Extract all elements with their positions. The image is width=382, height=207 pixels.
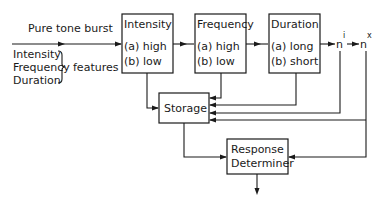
- frequency-option-a: (a) high: [197, 40, 240, 53]
- features-group: Intensity Frequency Duration features: [13, 48, 119, 87]
- response-label-line1: Response: [231, 143, 284, 156]
- arrow-right-icon: [220, 155, 227, 160]
- frequency-title: Frequency: [197, 18, 254, 31]
- storage-label: Storage: [164, 102, 207, 115]
- duration-option-a: (a) long: [271, 40, 314, 53]
- intensity-title: Intensity: [124, 18, 172, 31]
- frequency-analyzer: Frequency (a) high (b) low: [195, 14, 254, 73]
- features-label: features: [73, 61, 119, 74]
- arrow-down-icon: [255, 188, 260, 195]
- feature-duration: Duration: [13, 74, 61, 87]
- arrow-right-icon: [58, 42, 65, 47]
- analyzer-n-i: n: [336, 38, 343, 51]
- arrow-right-icon: [115, 42, 122, 47]
- arrow-left-icon: [209, 111, 216, 116]
- arrow-left-icon: [209, 103, 216, 108]
- intensity-option-b: (b) low: [124, 55, 162, 68]
- storage-box: Storage: [159, 93, 209, 123]
- feature-intensity: Intensity: [13, 48, 61, 61]
- frequency-option-b: (b) low: [197, 55, 235, 68]
- arrow-right-icon: [180, 42, 187, 47]
- arrow-right-icon: [328, 42, 335, 47]
- duration-option-b: (b) short: [271, 55, 319, 68]
- intensity-option-a: (a) high: [124, 40, 167, 53]
- analyzer-n-i-sup: i: [343, 31, 345, 40]
- arrow-right-icon: [152, 106, 159, 111]
- response-label-line2: Determiner: [231, 157, 294, 170]
- arrow-left-icon: [209, 118, 216, 123]
- duration-title: Duration: [271, 18, 319, 31]
- duration-analyzer: Duration (a) long (b) short: [269, 14, 320, 73]
- feature-analysis-diagram: Pure tone burst Intensity Frequency Dura…: [0, 0, 382, 207]
- input-line: [12, 42, 122, 47]
- analyzer-n-x-sup: x: [367, 31, 372, 40]
- intensity-analyzer: Intensity (a) high (b) low: [122, 14, 173, 73]
- analyzer-n-x: n: [360, 38, 367, 51]
- arrow-right-icon: [352, 42, 359, 47]
- response-determiner-box: Response Determiner: [227, 139, 294, 174]
- input-label: Pure tone burst: [28, 22, 113, 35]
- arrow-left-icon: [209, 96, 216, 101]
- arrow-right-icon: [254, 42, 261, 47]
